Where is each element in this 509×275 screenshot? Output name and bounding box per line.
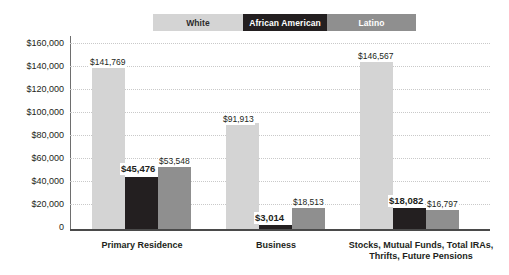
y-tick-160000: $160,000 (0, 38, 64, 48)
bar-value-business-white: $91,913 (222, 114, 255, 125)
bar-value-business-african-american: $3,014 (254, 212, 285, 224)
bar-stocks-african-american[interactable] (393, 208, 426, 229)
bar-value-business-latino: $18,513 (292, 197, 325, 208)
bar-business-latino[interactable] (292, 208, 325, 229)
legend-item-latino[interactable]: Latino (327, 14, 416, 31)
category-label-stocks: Stocks, Mutual Funds, Total IRAs, Thrift… (336, 240, 506, 262)
y-tick-100000: $100,000 (0, 107, 64, 117)
chart-legend: White African American Latino (153, 14, 416, 31)
y-tick-40000: $40,000 (0, 176, 64, 186)
legend-item-white[interactable]: White (153, 14, 243, 31)
gridline-160000 (70, 43, 490, 44)
gridline-140000 (70, 66, 490, 67)
bar-value-primary-residence-latino: $53,548 (158, 156, 191, 167)
category-label-business: Business (216, 240, 336, 251)
bar-value-stocks-latino: $16,797 (426, 199, 459, 210)
legend-item-african-american[interactable]: African American (243, 14, 327, 31)
bar-value-primary-residence-white: $141,769 (89, 57, 126, 68)
y-tick-60000: $60,000 (0, 153, 64, 163)
gridline-80000 (70, 135, 490, 136)
y-tick-120000: $120,000 (0, 84, 64, 94)
x-axis-line (70, 229, 490, 231)
gridline-60000 (70, 158, 490, 159)
bar-value-primary-residence-african-american: $45,476 (120, 163, 156, 175)
y-tick-140000: $140,000 (0, 61, 64, 71)
bar-stocks-latino[interactable] (426, 210, 459, 229)
y-tick-80000: $80,000 (0, 130, 64, 140)
bar-value-stocks-african-american: $18,082 (388, 195, 424, 207)
plot-area: $141,769 $45,476 $53,548 $91,913 $3,014 … (70, 36, 490, 229)
y-tick-0: 0 (0, 222, 64, 232)
y-tick-20000: $20,000 (0, 199, 64, 209)
category-label-primary-residence: Primary Residence (62, 240, 222, 251)
bar-business-african-american[interactable] (259, 225, 292, 229)
gridline-120000 (70, 89, 490, 90)
bar-primary-residence-white[interactable] (92, 66, 125, 229)
bar-primary-residence-african-american[interactable] (125, 177, 158, 229)
bar-value-stocks-white: $146,567 (357, 51, 394, 62)
gridline-100000 (70, 112, 490, 113)
chart-container: White African American Latino $160,000 $… (0, 0, 509, 275)
bar-primary-residence-latino[interactable] (158, 167, 191, 229)
